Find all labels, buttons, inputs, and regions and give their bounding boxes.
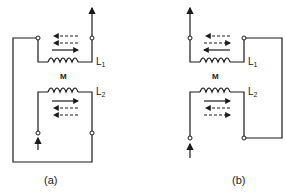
terminal-icon: [188, 136, 192, 140]
terminal-icon: [36, 36, 40, 40]
terminal-icon: [242, 136, 246, 140]
coil-l1-icon: [48, 58, 78, 62]
wire: [230, 38, 244, 62]
terminal-icon: [188, 36, 192, 40]
terminal-icon: [36, 131, 40, 135]
wire: [78, 38, 92, 62]
return-loop-wire: [13, 38, 92, 162]
wire: [38, 38, 48, 62]
terminal-icon: [90, 131, 94, 135]
coil-l2-label: L2: [96, 86, 105, 98]
coil-l2-label: L2: [248, 86, 257, 98]
coil-l1-label: L1: [96, 56, 105, 68]
wire: [190, 38, 200, 62]
wire: [190, 92, 200, 138]
wire: [78, 92, 92, 133]
wire: [38, 92, 48, 133]
mutual-inductance-label: M: [60, 72, 67, 81]
coil-l1-label: L1: [248, 56, 257, 68]
coil-l2-icon: [200, 88, 230, 92]
terminal-icon: [90, 36, 94, 40]
terminal-icon: [242, 36, 246, 40]
coupled-coils-diagram: [0, 0, 286, 196]
wire: [230, 92, 244, 138]
panel-caption: (b): [232, 174, 245, 186]
mutual-inductance-label: M: [212, 72, 219, 81]
panel-b: [190, 8, 282, 158]
panel-caption: (a): [44, 174, 57, 186]
panel-a: [13, 8, 92, 162]
coil-l1-icon: [200, 58, 230, 62]
coil-l2-icon: [48, 88, 78, 92]
